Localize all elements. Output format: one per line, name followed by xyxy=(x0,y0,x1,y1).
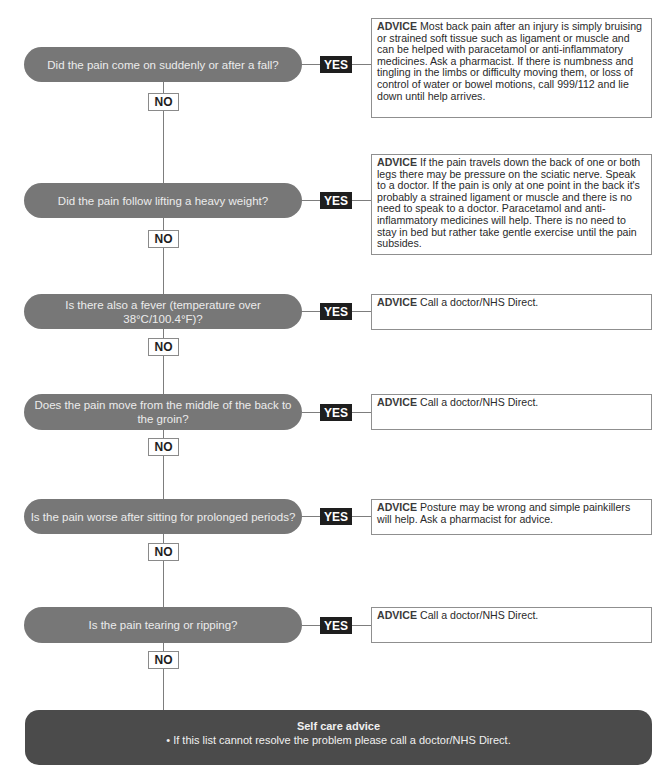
yes-label-6: YES xyxy=(320,617,352,634)
advice-text: Call a doctor/NHS Direct. xyxy=(420,609,538,621)
no-label-2: NO xyxy=(148,230,179,248)
no-label-1: NO xyxy=(148,93,179,111)
yes-label-5: YES xyxy=(320,508,352,525)
advice-heading: ADVICE xyxy=(377,609,417,621)
advice-text: If the pain travels down the back of one… xyxy=(377,156,640,249)
advice-box-1: ADVICE Most back pain after an injury is… xyxy=(371,18,652,118)
advice-box-2: ADVICE If the pain travels down the back… xyxy=(371,154,652,255)
advice-heading: ADVICE xyxy=(377,20,417,32)
yes-label-2: YES xyxy=(320,192,352,209)
advice-box-6: ADVICE Call a doctor/NHS Direct. xyxy=(371,607,652,643)
yes-label-4: YES xyxy=(320,404,352,421)
no-label-4: NO xyxy=(148,438,179,456)
question-node-6: Is the pain tearing or ripping? xyxy=(24,607,302,643)
advice-heading: ADVICE xyxy=(377,396,417,408)
question-node-3: Is there also a fever (temperature over … xyxy=(24,294,302,329)
question-node-2: Did the pain follow lifting a heavy weig… xyxy=(24,183,302,218)
advice-heading: ADVICE xyxy=(377,296,417,308)
self-care-title: Self care advice xyxy=(25,719,652,733)
no-label-3: NO xyxy=(148,338,179,356)
self-care-advice-box: Self care advice • If this list cannot r… xyxy=(25,710,652,765)
yes-label-3: YES xyxy=(320,303,352,320)
no-label-5: NO xyxy=(148,543,179,561)
advice-box-3: ADVICE Call a doctor/NHS Direct. xyxy=(371,294,652,330)
advice-text: Most back pain after an injury is simply… xyxy=(377,20,642,102)
advice-heading: ADVICE xyxy=(377,156,417,168)
advice-text: Call a doctor/NHS Direct. xyxy=(420,396,538,408)
advice-box-5: ADVICE Posture may be wrong and simple p… xyxy=(371,499,652,535)
question-node-4: Does the pain move from the middle of th… xyxy=(24,394,302,430)
question-node-1: Did the pain come on suddenly or after a… xyxy=(24,47,302,82)
self-care-bullet: • If this list cannot resolve the proble… xyxy=(25,733,652,747)
no-label-6: NO xyxy=(148,651,179,669)
advice-text: Call a doctor/NHS Direct. xyxy=(420,296,538,308)
yes-label-1: YES xyxy=(320,56,352,73)
advice-box-4: ADVICE Call a doctor/NHS Direct. xyxy=(371,394,652,430)
advice-heading: ADVICE xyxy=(377,501,417,513)
question-node-5: Is the pain worse after sitting for prol… xyxy=(24,499,302,534)
